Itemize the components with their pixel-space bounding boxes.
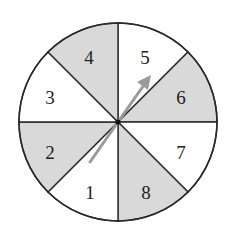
spinner-diagram: 5 6 7 8 1 2 3 4 <box>0 0 234 227</box>
spinner-hub <box>115 119 120 124</box>
sector-label-3: 3 <box>45 87 55 108</box>
sector-label-8: 8 <box>141 182 151 203</box>
sector-label-1: 1 <box>85 182 95 203</box>
sector-label-4: 4 <box>84 47 94 68</box>
sector-label-6: 6 <box>176 87 186 108</box>
sector-label-5: 5 <box>140 47 150 68</box>
sector-label-2: 2 <box>45 142 55 163</box>
sector-label-7: 7 <box>176 142 186 163</box>
